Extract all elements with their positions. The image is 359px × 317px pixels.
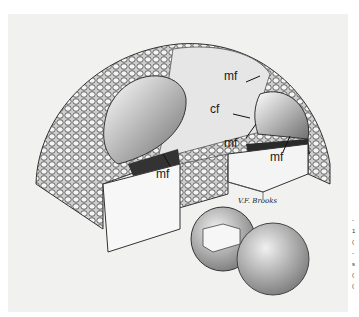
- label-mf-top: mf: [224, 70, 237, 82]
- cropped-caption-edge: - 1 ( - s ( (: [352, 215, 358, 292]
- edge-char: -: [352, 215, 358, 226]
- figure-plate: mf cf mf mf mf V.F. Brooks: [8, 14, 348, 312]
- edge-char: -: [352, 248, 358, 259]
- edge-char: s: [352, 259, 358, 270]
- edge-char: (: [352, 281, 358, 292]
- cell-illustration: [8, 14, 348, 312]
- edge-char: (: [352, 270, 358, 281]
- label-mf-right: mf: [270, 151, 283, 163]
- label-mf-left: mf: [156, 168, 169, 180]
- label-mf-center: mf: [224, 137, 237, 149]
- edge-char: (: [352, 237, 358, 248]
- edge-char: 1: [352, 226, 358, 237]
- artist-signature: V.F. Brooks: [238, 197, 277, 205]
- label-cf: cf: [210, 103, 219, 115]
